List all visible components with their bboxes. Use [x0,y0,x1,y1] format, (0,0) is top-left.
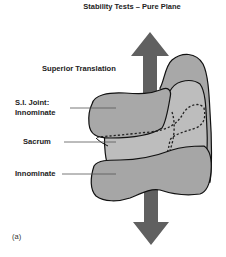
panel-label: (a) [12,232,21,241]
label-sacrum: Sacrum [23,137,51,147]
label-si-joint: S.I. Joint: Innominate [15,98,56,118]
label-superior-translation: Superior Translation [42,64,116,74]
label-si-joint-line2: Innominate [15,108,56,118]
si-joint-innominate-shape [89,88,171,138]
pelvis-diagram [0,0,226,257]
label-innominate: Innominate [15,169,56,179]
label-si-joint-line1: S.I. Joint: [15,98,56,108]
